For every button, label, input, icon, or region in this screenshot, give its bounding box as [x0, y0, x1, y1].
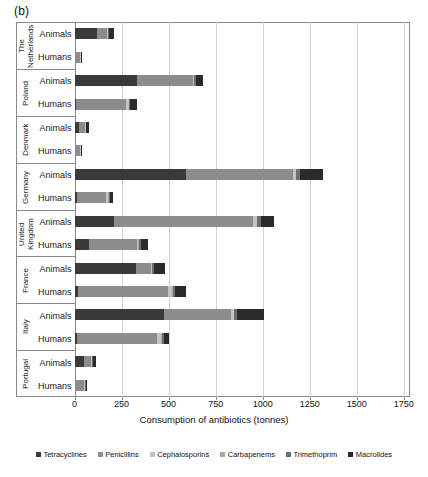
bar-portugal-animals — [75, 356, 410, 367]
bar-segment-penicillins — [137, 75, 193, 86]
legend-label: Penicillins — [105, 450, 138, 459]
bar-segment-macrolides — [164, 333, 170, 344]
bar-segment-macrolides — [300, 169, 323, 180]
bar-segment-macrolides — [237, 309, 264, 320]
bar-segment-penicillins — [78, 286, 168, 297]
legend-item-cephalosporins: Cephalosporins — [150, 450, 210, 459]
bar-the-netherlands-humans — [75, 52, 410, 63]
row-label-animals: Animals — [34, 117, 75, 140]
bar-segment-macrolides — [93, 356, 96, 367]
bar-denmark-humans — [75, 145, 410, 156]
country-block-united-kingdom: United KingdomAnimalsHumans — [17, 211, 75, 258]
bar-segment-macrolides — [261, 216, 274, 227]
row-label-humans: Humans — [34, 187, 75, 210]
bar-segment-penicillins — [84, 356, 92, 367]
bar-segment-tetracyclines — [75, 28, 97, 39]
bar-segment-tetracyclines — [75, 216, 115, 227]
bar-segment-macrolides — [86, 380, 88, 391]
row-label-animals: Animals — [34, 257, 75, 280]
row-label-animals: Animals — [34, 70, 75, 93]
legend-item-penicillins: Penicillins — [98, 450, 139, 459]
country-label: Portugal — [17, 351, 34, 398]
bar-segment-penicillins — [136, 263, 151, 274]
legend-item-macrolides: Macrolides — [348, 450, 392, 459]
country-label: Germany — [17, 164, 34, 210]
bar-segment-penicillins — [77, 192, 106, 203]
row-label-animals: Animals — [34, 211, 75, 234]
x-tick-label: 500 — [149, 399, 189, 409]
bar-segment-macrolides — [86, 122, 89, 133]
bar-segment-penicillins — [114, 216, 253, 227]
row-label-animals: Animals — [34, 351, 75, 374]
bar-united-kingdom-animals — [75, 216, 410, 227]
bar-segment-macrolides — [130, 99, 137, 110]
plot-area — [75, 22, 410, 397]
legend-label: Tetracyclines — [43, 450, 86, 459]
country-block-the-netherlands: The NetherlandsAnimalsHumans — [17, 23, 75, 70]
country-block-denmark: DenmarkAnimalsHumans — [17, 117, 75, 164]
country-block-poland: PolandAnimalsHumans — [17, 70, 75, 117]
legend-item-tetracyclines: Tetracyclines — [36, 450, 87, 459]
x-tick-label: 1250 — [290, 399, 330, 409]
legend-label: Cephalosporins — [157, 450, 209, 459]
bar-segment-macrolides — [81, 145, 82, 156]
row-label-humans: Humans — [34, 93, 75, 116]
bar-segment-tetracyclines — [75, 263, 137, 274]
bar-segment-penicillins — [97, 28, 107, 39]
row-label-humans: Humans — [34, 233, 75, 256]
bar-segment-macrolides — [196, 75, 204, 86]
bar-segment-penicillins — [164, 309, 231, 320]
panel-label: (b) — [14, 4, 29, 18]
country-label: Poland — [17, 70, 34, 116]
x-tick-label: 750 — [196, 399, 236, 409]
bar-segment-macrolides — [81, 52, 82, 63]
row-label-animals: Animals — [34, 23, 75, 46]
legend-swatch-icon — [286, 452, 291, 457]
bar-germany-animals — [75, 169, 410, 180]
bar-france-animals — [75, 263, 410, 274]
x-tick-label: 1000 — [243, 399, 283, 409]
legend-swatch-icon — [348, 452, 353, 457]
legend-label: Carbapenems — [228, 450, 275, 459]
bar-segment-penicillins — [75, 380, 84, 391]
x-axis-title: Consumption of antibiotics (tonnes) — [0, 414, 428, 425]
bar-poland-animals — [75, 75, 410, 86]
bar-italy-humans — [75, 333, 410, 344]
bar-segment-tetracyclines — [75, 356, 84, 367]
country-label: Italy — [17, 304, 34, 350]
row-label-humans: Humans — [34, 140, 75, 163]
bar-segment-tetracyclines — [75, 239, 89, 250]
country-block-portugal: PortugalAnimalsHumans — [17, 351, 75, 398]
legend-item-carbapenems: Carbapenems — [220, 450, 275, 459]
bar-segment-macrolides — [154, 263, 165, 274]
bar-segment-tetracyclines — [75, 169, 187, 180]
bar-segment-macrolides — [109, 28, 114, 39]
row-label-humans: Humans — [34, 375, 75, 398]
x-tick-label: 1750 — [384, 399, 424, 409]
country-label: The Netherlands — [17, 23, 34, 69]
country-block-france: FranceAnimalsHumans — [17, 257, 75, 304]
bar-poland-humans — [75, 99, 410, 110]
bar-united-kingdom-humans — [75, 239, 410, 250]
x-tick-label: 1500 — [337, 399, 377, 409]
country-block-italy: ItalyAnimalsHumans — [17, 304, 75, 351]
bar-the-netherlands-animals — [75, 28, 410, 39]
bar-segment-penicillins — [76, 99, 126, 110]
legend-label: Macrolides — [356, 450, 392, 459]
bar-segment-penicillins — [89, 239, 137, 250]
row-label-humans: Humans — [34, 327, 75, 350]
bar-segment-penicillins — [77, 333, 157, 344]
bar-segment-macrolides — [141, 239, 148, 250]
legend-label: Trimethoprim — [293, 450, 337, 459]
y-axis-labels: The NetherlandsAnimalsHumansPolandAnimal… — [16, 22, 75, 397]
bars-layer — [75, 22, 410, 397]
row-label-animals: Animals — [34, 304, 75, 327]
chart-figure: (b) The NetherlandsAnimalsHumansPolandAn… — [0, 0, 428, 477]
legend-swatch-icon — [150, 452, 155, 457]
legend-swatch-icon — [36, 452, 41, 457]
bar-segment-tetracyclines — [75, 309, 165, 320]
row-label-animals: Animals — [34, 164, 75, 187]
bar-portugal-humans — [75, 380, 410, 391]
chart-legend: TetracyclinesPenicillinsCephalosporinsCa… — [0, 450, 428, 459]
country-label: France — [17, 257, 34, 303]
